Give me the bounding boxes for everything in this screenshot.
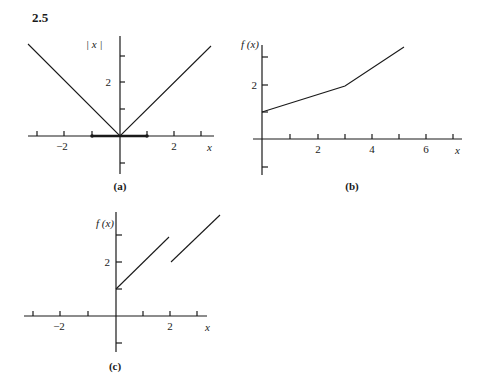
chart-b-caption: (b) (345, 180, 359, 193)
chart-b-x-ticks (290, 134, 453, 139)
chart-c-xtick-2: 2 (167, 320, 173, 332)
chart-c-x-label: x (204, 321, 210, 333)
chart-a-interval-start-dot (90, 134, 94, 138)
chart-a-ytick-2: 2 (106, 76, 112, 88)
chart-c-segment-1 (116, 237, 169, 289)
chart-b: f (x) 2 2 4 6 x (b) (241, 38, 462, 193)
chart-c-ytick-2: 2 (105, 256, 111, 268)
chart-b-xtick-4: 4 (369, 143, 375, 155)
chart-a-x-label: x (206, 141, 212, 153)
chart-a-interval-end-dot (145, 134, 149, 138)
chart-c-caption: (c) (109, 360, 122, 373)
chart-c-y-ticks (116, 235, 122, 343)
chart-b-xtick-6: 6 (423, 143, 429, 155)
chart-b-x-label: x (454, 144, 460, 156)
chart-c-x-ticks (33, 311, 197, 316)
chart-c-y-label: f (x) (96, 217, 114, 230)
chart-b-xtick-2: 2 (315, 143, 321, 155)
chart-c-xtick-m2: −2 (53, 320, 65, 332)
chart-c: f (x) 2 −2 2 x (c) (24, 212, 220, 373)
chart-a: | x | 2 −2 2 x (a) (28, 36, 214, 193)
chart-c-segment-2 (171, 215, 220, 262)
chart-a-y-ticks (120, 56, 125, 163)
chart-a-caption: (a) (114, 180, 127, 193)
chart-b-piecewise-curve (262, 47, 404, 112)
chart-a-xtick-m2: −2 (56, 140, 68, 152)
chart-a-xtick-2: 2 (171, 140, 177, 152)
chart-a-y-label: | x | (86, 38, 102, 50)
figure-canvas: | x | 2 −2 2 x (a) f (x) 2 2 4 6 x (0, 0, 487, 381)
chart-b-ytick-2: 2 (252, 79, 258, 91)
chart-b-y-label: f (x) (241, 38, 259, 51)
